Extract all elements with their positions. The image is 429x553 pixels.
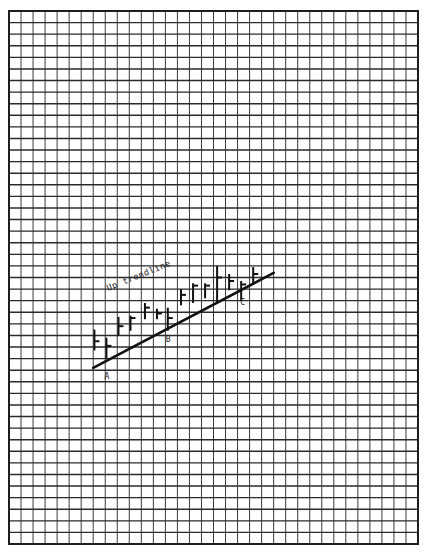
- point-b-label: B: [166, 335, 171, 344]
- point-a-label: A: [104, 372, 109, 381]
- point-c-label: C: [240, 298, 245, 307]
- paper-background: [0, 0, 429, 553]
- chart-canvas: Up trendline A B C: [0, 0, 429, 553]
